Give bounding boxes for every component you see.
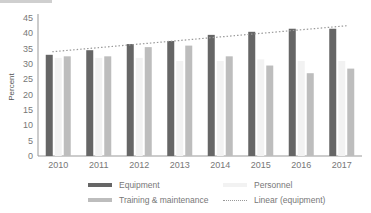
bar-equipment-2017 bbox=[329, 29, 336, 156]
bar-equipment-2012 bbox=[127, 44, 134, 156]
x-tick-label: 2012 bbox=[129, 160, 149, 170]
bar-training-maintenance-2012 bbox=[145, 47, 152, 156]
bar-training-maintenance-2010 bbox=[64, 56, 71, 156]
bar-training-maintenance-2014 bbox=[226, 56, 233, 156]
bar-personnel-2014 bbox=[217, 61, 224, 156]
bar-equipment-2014 bbox=[208, 35, 215, 156]
y-tick-label: 30 bbox=[23, 59, 33, 69]
y-tick-label: 10 bbox=[23, 120, 33, 130]
y-tick-label: 45 bbox=[23, 13, 33, 23]
x-tick-label: 2016 bbox=[291, 160, 311, 170]
legend-label-training: Training & maintenance bbox=[119, 195, 208, 205]
bar-training-maintenance-2013 bbox=[185, 46, 192, 156]
linear-trendline bbox=[52, 26, 348, 52]
bar-training-maintenance-2017 bbox=[347, 69, 354, 156]
x-tick-label: 2013 bbox=[170, 160, 190, 170]
personnel-swatch-icon bbox=[223, 183, 247, 187]
y-tick-label: 5 bbox=[28, 136, 33, 146]
equipment-swatch-icon bbox=[88, 183, 112, 187]
bar-personnel-2012 bbox=[136, 58, 143, 156]
bar-equipment-2013 bbox=[167, 41, 174, 156]
legend-item-training: Training & maintenance bbox=[88, 195, 208, 205]
x-tick-label: 2017 bbox=[332, 160, 352, 170]
bar-equipment-2011 bbox=[86, 50, 93, 156]
y-tick-label: 15 bbox=[23, 105, 33, 115]
linear-trend-swatch-icon bbox=[223, 200, 247, 201]
bar-personnel-2011 bbox=[95, 58, 102, 156]
y-tick-label: 0 bbox=[28, 151, 33, 161]
y-tick-label: 20 bbox=[23, 90, 33, 100]
bar-training-maintenance-2015 bbox=[266, 66, 273, 156]
y-tick-label: 35 bbox=[23, 44, 33, 54]
legend-label-personnel: Personnel bbox=[254, 180, 292, 190]
legend-item-linear: Linear (equipment) bbox=[223, 195, 325, 205]
y-tick-label: 40 bbox=[23, 28, 33, 38]
bar-personnel-2017 bbox=[338, 61, 345, 156]
bar-personnel-2013 bbox=[176, 61, 183, 156]
training-swatch-icon bbox=[88, 198, 112, 202]
bar-equipment-2010 bbox=[46, 55, 53, 156]
bar-equipment-2015 bbox=[248, 32, 255, 156]
x-tick-label: 2011 bbox=[89, 160, 108, 170]
x-tick-label: 2014 bbox=[210, 160, 230, 170]
legend-label-linear: Linear (equipment) bbox=[254, 195, 325, 205]
y-axis-title: Percent bbox=[7, 72, 16, 100]
bar-training-maintenance-2016 bbox=[307, 73, 314, 156]
bar-personnel-2015 bbox=[257, 59, 264, 156]
legend-item-personnel: Personnel bbox=[223, 180, 292, 190]
bar-equipment-2016 bbox=[289, 29, 296, 156]
x-tick-label: 2010 bbox=[48, 160, 68, 170]
bar-personnel-2016 bbox=[298, 61, 305, 156]
x-tick-label: 2015 bbox=[251, 160, 271, 170]
bar-chart: 051015202530354045Percent201020112012201… bbox=[0, 0, 371, 213]
legend-item-equipment: Equipment bbox=[88, 180, 160, 190]
bar-personnel-2010 bbox=[55, 58, 62, 156]
legend-label-equipment: Equipment bbox=[119, 180, 160, 190]
bar-training-maintenance-2011 bbox=[104, 56, 111, 156]
y-tick-label: 25 bbox=[23, 74, 33, 84]
